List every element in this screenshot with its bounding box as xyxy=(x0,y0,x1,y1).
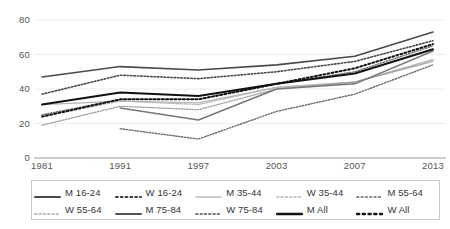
legend-line-swatch xyxy=(195,188,222,198)
x-axis-tick-label: 1981 xyxy=(12,160,72,171)
legend-line-swatch xyxy=(34,188,61,198)
legend-item-w-16-24[interactable]: W 16-24 xyxy=(115,187,196,198)
legend-line-swatch xyxy=(34,205,61,215)
legend-row: W 55-64M 75-84W 75-84M AllW All xyxy=(34,201,437,218)
legend-item-label: W 75-84 xyxy=(226,204,263,215)
x-axis-tick-label: 1997 xyxy=(168,160,228,171)
legend-item-w-35-44[interactable]: W 35-44 xyxy=(276,187,357,198)
legend-line-swatch xyxy=(276,205,303,215)
legend-line-swatch xyxy=(356,205,383,215)
series-lines xyxy=(42,32,433,139)
legend-item-m-55-64[interactable]: M 55-64 xyxy=(356,187,437,198)
legend-item-label: M 35-44 xyxy=(226,187,262,198)
legend-item-label: W 35-44 xyxy=(307,187,344,198)
chart-legend: M 16-24W 16-24M 35-44W 35-44M 55-64W 55-… xyxy=(31,180,440,220)
y-axis-tick-label: 20 xyxy=(2,118,30,129)
legend-line-swatch xyxy=(115,188,142,198)
y-axis-tick-label: 80 xyxy=(2,14,30,25)
legend-item-w-all[interactable]: W All xyxy=(356,204,437,215)
legend-item-label: M 75-84 xyxy=(146,204,182,215)
chart-plot-area: 806040200 198119911997200320072013 xyxy=(0,0,450,172)
x-axis-tick-label: 2013 xyxy=(403,160,450,171)
y-axis-tick-label: 60 xyxy=(2,49,30,60)
legend-line-swatch xyxy=(195,205,222,215)
legend-item-label: W 55-64 xyxy=(65,204,102,215)
legend-item-label: M 16-24 xyxy=(65,187,101,198)
legend-line-swatch xyxy=(356,188,383,198)
legend-line-swatch xyxy=(276,188,303,198)
series-line xyxy=(42,61,433,125)
legend-item-w-55-64[interactable]: W 55-64 xyxy=(34,204,115,215)
chart-svg xyxy=(0,0,450,172)
x-axis-tick-label: 2007 xyxy=(325,160,385,171)
legend-item-w-75-84[interactable]: W 75-84 xyxy=(195,204,276,215)
legend-row: M 16-24W 16-24M 35-44W 35-44M 55-64 xyxy=(34,184,437,201)
line-chart-figure: 806040200 198119911997200320072013 M 16-… xyxy=(0,0,450,229)
legend-item-m-16-24[interactable]: M 16-24 xyxy=(34,187,115,198)
legend-item-m-all[interactable]: M All xyxy=(276,204,357,215)
legend-item-label: M 55-64 xyxy=(387,187,423,198)
legend-item-m-75-84[interactable]: M 75-84 xyxy=(115,204,196,215)
y-axis-tick-label: 40 xyxy=(2,83,30,94)
legend-line-swatch xyxy=(115,205,142,215)
legend-item-label: M All xyxy=(307,204,328,215)
legend-item-label: W All xyxy=(387,204,409,215)
x-axis-tick-label: 2003 xyxy=(247,160,307,171)
x-axis-tick-label: 1991 xyxy=(90,160,150,171)
legend-item-label: W 16-24 xyxy=(146,187,183,198)
legend-item-m-35-44[interactable]: M 35-44 xyxy=(195,187,276,198)
